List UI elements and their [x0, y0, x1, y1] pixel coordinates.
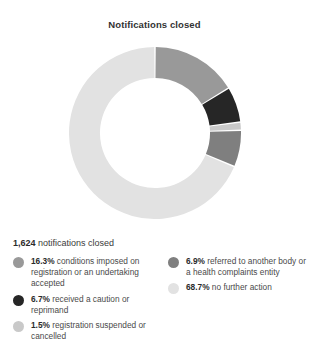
legend-description: no further action [212, 282, 272, 292]
donut-chart [69, 47, 241, 219]
legend-label: 6.9% referred to another body or a healt… [186, 256, 309, 278]
legend-percent: 6.7% [31, 294, 50, 304]
legend-label: 16.3% conditions imposed on registration… [31, 256, 163, 290]
donut-segment [155, 47, 228, 104]
legend-label: 6.7% received a caution or reprimand [31, 294, 163, 316]
legend-swatch-icon [13, 257, 24, 268]
legend-column-left: 16.3% conditions imposed on registration… [13, 256, 163, 346]
page-title: Notifications closed [0, 19, 309, 30]
legend-percent: 6.9% [186, 256, 205, 266]
legend-item: 6.7% received a caution or reprimand [13, 294, 163, 316]
legend-swatch-icon [168, 257, 179, 268]
legend-swatch-icon [168, 283, 179, 294]
legend-swatch-icon [13, 295, 24, 306]
legend-label: 68.7% no further action [186, 282, 272, 293]
legend-item: 6.9% referred to another body or a healt… [168, 256, 309, 278]
legend-percent: 1.5% [31, 320, 50, 330]
legend-item: 68.7% no further action [168, 282, 309, 294]
legend-percent: 68.7% [186, 282, 210, 292]
total-suffix: notifications closed [38, 238, 114, 248]
legend-percent: 16.3% [31, 256, 55, 266]
legend-column-right: 6.9% referred to another body or a healt… [168, 256, 309, 298]
legend-swatch-icon [13, 321, 24, 332]
donut-segment-group [69, 47, 241, 219]
total-summary: 1,624 notifications closed [13, 238, 114, 248]
donut-chart-svg [69, 47, 241, 219]
chart-legend: 16.3% conditions imposed on registration… [0, 256, 309, 348]
total-count: 1,624 [13, 238, 36, 248]
legend-item: 1.5% registration suspended or cancelled [13, 320, 163, 342]
legend-item: 16.3% conditions imposed on registration… [13, 256, 163, 290]
legend-label: 1.5% registration suspended or cancelled [31, 320, 163, 342]
